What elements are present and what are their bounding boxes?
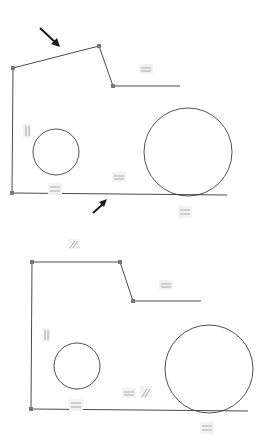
parallel-slash-icon [68,239,80,249]
arrow-icon [40,28,60,47]
sketch-line-left-vertical[interactable] [31,262,32,409]
sketch-point[interactable] [111,84,115,88]
equal-bars-icon [112,172,126,182]
equal-bars-icon [69,399,83,411]
equal-bars-icon [178,206,192,218]
sketch-line-bottom[interactable] [31,409,248,411]
sketch-line-diagonal[interactable] [99,46,113,86]
sketch-point[interactable] [131,299,135,303]
sketch-point[interactable] [97,44,101,48]
equal-bars-icon [139,64,153,74]
arrow-icon [93,199,107,213]
equal-bars-icon [159,280,173,290]
sketch-circle-large[interactable] [144,108,232,196]
sketch-point[interactable] [29,407,33,411]
sketch-line-left-vertical[interactable] [12,68,13,193]
sketch-circle-large[interactable] [165,325,253,413]
panel-before [10,28,232,218]
sketch-point[interactable] [118,260,122,264]
sketch-point[interactable] [30,260,34,264]
equal-bars-icon [200,422,214,434]
sketch-line-slanted-top[interactable] [13,46,99,68]
panel-after [29,239,253,434]
sketch-line-diagonal[interactable] [120,262,133,301]
sketch-circle-small[interactable] [33,129,79,175]
equal-bars-icon [122,388,136,398]
vertical-bars-icon [42,328,50,342]
sketch-point[interactable] [11,66,15,70]
sketch-point[interactable] [10,191,14,195]
sketch-line-bottom[interactable] [12,193,227,195]
parallel-slash-icon [140,386,152,398]
cad-sketch-canvas [0,0,264,440]
vertical-bars-icon [23,124,31,138]
sketch-circle-small[interactable] [54,343,100,389]
equal-bars-icon [48,183,62,195]
